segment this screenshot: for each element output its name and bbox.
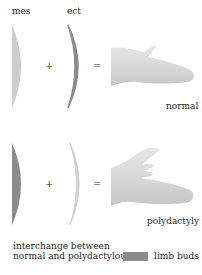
mes-crescent-normal (12, 25, 21, 108)
legend-caption: interchange between normal and polydacty… (13, 241, 131, 261)
polydactyly-limb-icon (111, 148, 193, 206)
legend-line-2: normal and polydactylous (13, 251, 131, 261)
legend-swatch (123, 252, 148, 261)
plus-sign-polydactyly: + (45, 179, 53, 189)
ect-crescent-polydactyly (70, 143, 79, 225)
ect-label: ect (67, 6, 81, 16)
equals-sign-polydactyly: = (93, 179, 101, 189)
normal-label: normal (166, 101, 198, 111)
ect-crescent-normal (68, 25, 78, 108)
mes-label: mes (12, 6, 30, 16)
polydactyly-label: polydactyly (147, 216, 199, 226)
legend-line-1: interchange between (13, 241, 131, 251)
normal-limb-icon (111, 45, 194, 86)
diagram-canvas (0, 0, 202, 275)
equals-sign-normal: = (93, 61, 101, 71)
plus-sign-normal: + (45, 61, 53, 71)
mes-crescent-polydactyly (12, 143, 21, 225)
legend-swatch-label: limb buds (154, 251, 199, 261)
